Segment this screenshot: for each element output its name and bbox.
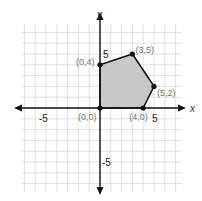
x-axis-left-arrow-icon bbox=[14, 105, 22, 112]
vertex-point bbox=[97, 105, 102, 110]
x-tick-label: -5 bbox=[39, 113, 48, 124]
x-axis-right-arrow-icon bbox=[178, 105, 186, 112]
vertex-label: (0,4) bbox=[76, 57, 95, 67]
vertex-point bbox=[130, 51, 135, 56]
vertex-point bbox=[97, 62, 102, 67]
vertex-point bbox=[141, 105, 146, 110]
vertex-label: (0,0) bbox=[78, 112, 97, 122]
x-tick-label: 5 bbox=[152, 113, 158, 124]
y-tick-label: 5 bbox=[103, 49, 109, 60]
vertex-point bbox=[151, 84, 156, 89]
coordinate-plane: xy-555-5(0,0)(0,4)(3,5)(5,2)(4,0) bbox=[0, 0, 202, 201]
y-axis-down-arrow-icon bbox=[97, 187, 104, 195]
y-axis-label: y bbox=[96, 9, 103, 20]
x-axis-label: x bbox=[189, 103, 196, 114]
vertex-label: (3,5) bbox=[135, 45, 154, 55]
vertex-label: (4,0) bbox=[129, 112, 148, 122]
vertex-label: (5,2) bbox=[157, 88, 176, 98]
shaded-polygon bbox=[100, 54, 154, 108]
y-tick-label: -5 bbox=[102, 157, 111, 168]
